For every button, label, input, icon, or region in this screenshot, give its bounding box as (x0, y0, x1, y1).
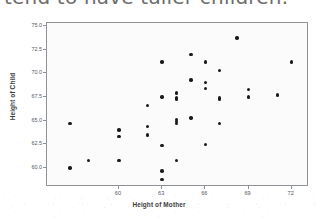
y-tick-label: 62.5 (20, 140, 42, 146)
data-point (146, 125, 149, 128)
data-point (218, 122, 221, 125)
data-point (146, 133, 149, 136)
data-point (204, 60, 207, 63)
x-tick-label: 66 (201, 190, 207, 196)
y-tick-mark (43, 167, 46, 168)
data-point (117, 159, 120, 162)
data-point (160, 178, 163, 181)
y-tick-mark (43, 120, 46, 121)
y-tick-label: 65.0 (20, 117, 42, 123)
y-tick-label: 67.5 (20, 93, 42, 99)
x-axis-label: Height of Mother (0, 201, 318, 208)
data-point (160, 95, 163, 98)
data-point (175, 159, 178, 162)
data-point (68, 122, 71, 125)
data-point (204, 81, 207, 84)
data-point (247, 88, 250, 91)
data-point (117, 128, 120, 131)
caption-text: tend to have taller children. (4, 0, 288, 8)
x-tick-mark (204, 186, 205, 189)
y-tick-label: 75.0 (20, 22, 42, 28)
x-tick-label: 63 (158, 190, 164, 196)
data-point (276, 93, 279, 96)
y-tick-mark (43, 72, 46, 73)
y-tick-label: 72.5 (20, 46, 42, 52)
data-point (175, 97, 178, 100)
data-point (204, 143, 207, 146)
data-point (160, 169, 163, 172)
x-tick-mark (161, 186, 162, 189)
data-point (189, 116, 192, 119)
data-point (175, 122, 178, 125)
y-tick-mark (43, 96, 46, 97)
data-point (117, 135, 120, 138)
scatter-plot-figure: 60.062.565.067.570.072.575.0 6063666972 … (0, 17, 318, 218)
x-tick-label: 60 (115, 190, 121, 196)
data-point (218, 98, 221, 101)
x-tick-mark (118, 186, 119, 189)
y-tick-mark (43, 25, 46, 26)
x-tick-label: 69 (244, 190, 250, 196)
data-point (68, 166, 71, 169)
plot-frame (46, 22, 308, 186)
x-tick-mark (291, 186, 292, 189)
x-tick-mark (248, 186, 249, 189)
data-point (87, 159, 90, 162)
data-point (160, 60, 163, 63)
data-point (189, 78, 192, 81)
data-point (189, 53, 192, 56)
data-point (204, 87, 207, 90)
data-point (235, 36, 238, 39)
y-tick-label: 60.0 (20, 164, 42, 170)
x-tick-label: 72 (288, 190, 294, 196)
data-point (290, 60, 293, 63)
y-tick-label: 70.0 (20, 69, 42, 75)
y-tick-mark (43, 49, 46, 50)
data-point (247, 95, 250, 98)
data-point (160, 144, 163, 147)
data-point (146, 104, 149, 107)
data-point (175, 91, 178, 94)
caption-strip: tend to have taller children. (0, 0, 318, 17)
y-axis-label: Height of Child (9, 57, 16, 137)
y-tick-mark (43, 143, 46, 144)
data-point (218, 69, 221, 72)
